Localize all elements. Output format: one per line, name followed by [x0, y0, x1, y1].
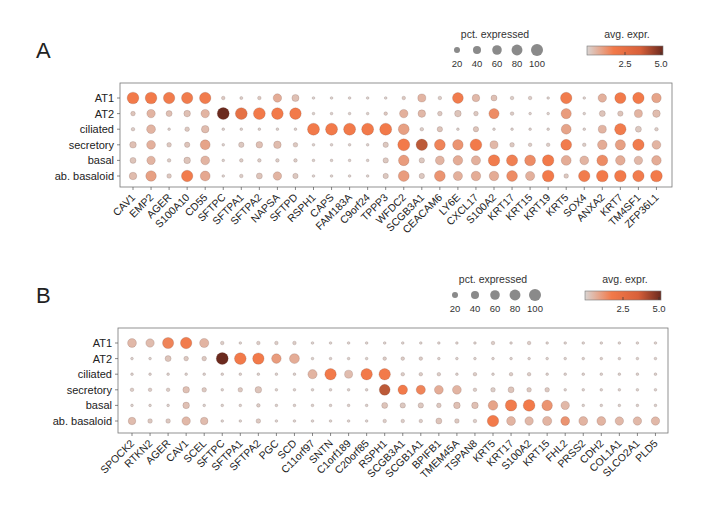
- dot: [528, 143, 532, 147]
- dot: [146, 339, 154, 347]
- panel-letter-b: B: [36, 283, 51, 308]
- size-legend-dot: [531, 44, 543, 56]
- size-legend-label: 80: [512, 58, 523, 69]
- dot: [149, 404, 152, 407]
- dot: [418, 110, 426, 118]
- dot: [471, 171, 481, 181]
- dot: [636, 373, 639, 376]
- dot: [312, 143, 315, 146]
- dot: [167, 404, 170, 407]
- dot: [365, 404, 368, 407]
- dot: [419, 158, 424, 163]
- dot: [491, 387, 496, 392]
- dot: [239, 420, 242, 423]
- dot: [564, 388, 567, 391]
- dot: [582, 388, 585, 391]
- dot: [129, 172, 137, 180]
- dot: [419, 372, 423, 376]
- dot: [201, 156, 210, 165]
- dot: [220, 341, 224, 345]
- dot: [636, 357, 639, 360]
- dot: [583, 112, 586, 115]
- dot: [222, 143, 225, 146]
- dot: [528, 96, 532, 100]
- dot: [131, 127, 135, 131]
- dot: [509, 372, 513, 376]
- dot: [434, 139, 445, 150]
- dot: [651, 170, 663, 182]
- dot: [400, 109, 408, 117]
- size-legend-label: 60: [490, 303, 501, 314]
- dot: [128, 417, 136, 425]
- dot: [437, 127, 442, 132]
- y-tick-label: basal: [86, 399, 112, 411]
- dot: [293, 173, 298, 178]
- dot: [618, 342, 621, 345]
- dot: [564, 373, 567, 376]
- dot: [492, 373, 495, 376]
- dot: [547, 97, 550, 100]
- size-legend-label: 40: [470, 303, 481, 314]
- dot: [329, 388, 332, 391]
- dot: [383, 419, 387, 423]
- dot: [600, 388, 603, 391]
- dot: [167, 142, 172, 147]
- dot: [402, 96, 406, 100]
- y-tick-label: AT1: [93, 337, 112, 349]
- dot: [456, 357, 459, 360]
- dot: [582, 404, 585, 407]
- dot: [329, 404, 332, 407]
- panel-b: B AT1AT2ciliatedsecretorybasalab. basalo…: [36, 273, 668, 480]
- dot: [293, 388, 296, 391]
- dot: [419, 342, 422, 345]
- dot: [239, 142, 244, 147]
- dot: [311, 342, 314, 345]
- dot: [201, 109, 209, 117]
- dot: [420, 127, 424, 131]
- dot: [618, 111, 623, 116]
- dot: [654, 342, 657, 345]
- dot: [293, 404, 296, 407]
- dot: [148, 419, 153, 424]
- dot: [275, 388, 278, 391]
- dot: [365, 357, 368, 360]
- dot: [400, 403, 405, 408]
- dot: [401, 419, 405, 423]
- dot: [598, 125, 606, 133]
- dot: [472, 94, 480, 102]
- size-legend-title: pct. expressed: [459, 273, 527, 285]
- dot: [598, 94, 606, 102]
- dot: [615, 92, 626, 103]
- dot: [437, 403, 442, 408]
- dot: [526, 171, 535, 180]
- dot: [398, 139, 410, 151]
- dot: [147, 109, 155, 117]
- dot: [131, 111, 136, 116]
- dot: [401, 372, 405, 376]
- dot: [564, 174, 569, 179]
- dot: [383, 173, 388, 178]
- dot: [383, 357, 387, 361]
- color-legend-title: avg. expr.: [602, 273, 648, 285]
- dot: [180, 337, 191, 348]
- dot: [542, 170, 554, 182]
- dot: [635, 126, 641, 132]
- colorbar-tick-label: 2.5: [618, 58, 631, 69]
- dot: [273, 172, 281, 180]
- dot: [365, 342, 368, 345]
- dot: [145, 92, 157, 104]
- dot: [583, 128, 586, 131]
- dot: [546, 342, 549, 345]
- dot: [221, 404, 224, 407]
- dot: [348, 159, 351, 162]
- dot: [547, 112, 550, 115]
- dot: [471, 156, 480, 165]
- dot: [398, 155, 409, 166]
- dot: [384, 97, 387, 100]
- size-legend-label: 80: [510, 303, 521, 314]
- dot: [655, 127, 659, 131]
- dot: [240, 96, 243, 99]
- dot: [456, 342, 459, 345]
- dot: [651, 417, 659, 425]
- dot: [582, 143, 586, 147]
